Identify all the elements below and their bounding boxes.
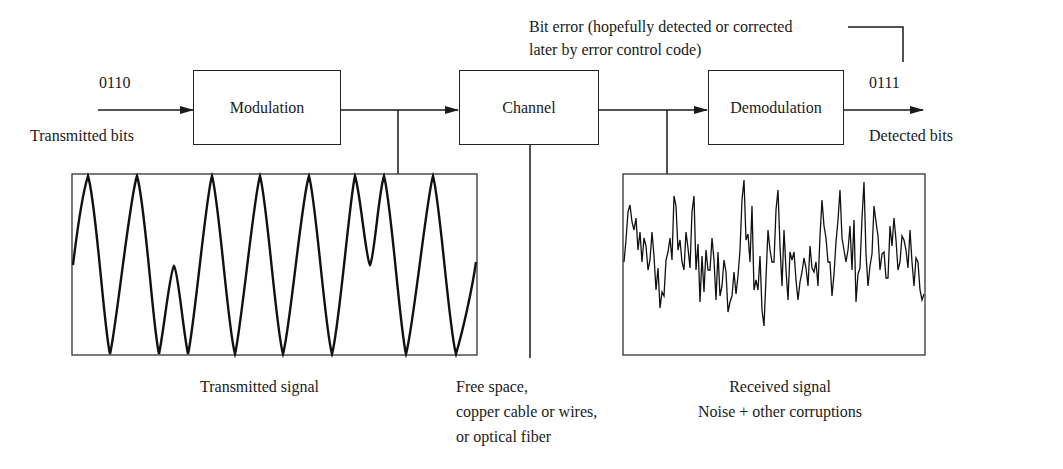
bit-error-note-line2: later by error control code)	[529, 40, 701, 59]
demodulation-label: Demodulation	[730, 99, 822, 117]
channel-media-line1: Free space,	[456, 377, 528, 396]
transmitted-signal-plot	[72, 174, 477, 355]
output-bits: 0111	[869, 73, 900, 92]
input-bits-label: Transmitted bits	[30, 126, 134, 145]
modulation-label: Modulation	[230, 99, 305, 117]
output-bits-label: Detected bits	[869, 126, 953, 145]
received-signal-caption: Received signal	[660, 377, 900, 396]
channel-media-line2: copper cable or wires,	[456, 402, 597, 421]
demodulation-block: Demodulation	[708, 70, 844, 145]
received-signal-subcaption: Noise + other corruptions	[660, 402, 900, 421]
transmitted-signal-caption: Transmitted signal	[200, 377, 319, 396]
bit-error-note-line1: Bit error (hopefully detected or correct…	[529, 17, 792, 36]
channel-label: Channel	[502, 99, 555, 117]
channel-block: Channel	[459, 70, 599, 145]
input-bits: 0110	[99, 73, 130, 92]
channel-media-line3: or optical fiber	[456, 427, 551, 446]
modulation-block: Modulation	[193, 70, 341, 145]
received-signal-plot	[623, 174, 925, 355]
